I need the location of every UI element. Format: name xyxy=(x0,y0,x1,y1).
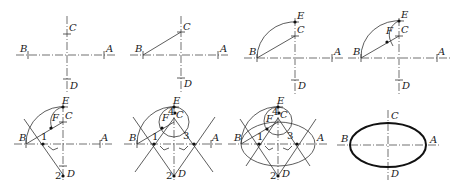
label-a: A xyxy=(105,43,113,54)
label-c: C xyxy=(183,21,191,32)
label-2: 2 xyxy=(166,170,172,181)
label-d: D xyxy=(390,168,399,179)
panel-step-8: B A C D xyxy=(337,110,440,180)
panel-step-5: B A C E F D 1 2 xyxy=(14,95,112,182)
label-a: A xyxy=(437,46,445,57)
label-f: F xyxy=(385,25,394,36)
label-b: B xyxy=(233,132,241,143)
label-a: A xyxy=(429,134,437,145)
label-3: 3 xyxy=(287,130,293,141)
label-c: C xyxy=(69,22,77,33)
label-e: E xyxy=(296,10,305,21)
label-3: 3 xyxy=(183,130,189,141)
panel-step-6: B A C E F D 1 2 3 4 xyxy=(124,95,222,182)
label-b: B xyxy=(340,133,348,144)
panel-step-7: B A C E F D 1 2 3 4 xyxy=(228,95,328,182)
label-a: A xyxy=(316,132,324,143)
label-1: 1 xyxy=(152,131,158,142)
label-b: B xyxy=(352,46,360,57)
label-2: 2 xyxy=(270,170,276,181)
label-2: 2 xyxy=(55,170,61,181)
label-a: A xyxy=(100,132,108,143)
panel-step-4: B A C E F D xyxy=(348,9,450,94)
label-b: B xyxy=(128,132,136,143)
label-a: A xyxy=(219,43,227,54)
label-e: E xyxy=(276,95,285,106)
label-c: C xyxy=(280,109,288,120)
panel-step-3: B A C E D xyxy=(244,10,345,94)
label-e: E xyxy=(172,95,181,106)
label-c: C xyxy=(401,24,409,35)
label-d: D xyxy=(297,80,306,91)
label-d: D xyxy=(401,80,410,91)
label-a: A xyxy=(333,46,341,57)
label-d: D xyxy=(66,168,75,179)
panel-step-2: B A C D xyxy=(130,16,228,92)
label-b: B xyxy=(18,132,26,143)
label-1: 1 xyxy=(257,131,263,142)
label-b: B xyxy=(248,46,256,57)
label-e: E xyxy=(400,9,409,20)
label-c: C xyxy=(176,109,184,120)
panel-step-1: B A C D xyxy=(16,16,115,92)
label-d: D xyxy=(69,80,78,91)
label-e: E xyxy=(61,95,70,106)
label-a: A xyxy=(211,132,219,143)
ellipse-construction-diagram: B A C D B A C D B A C E D xyxy=(0,0,456,189)
label-4: 4 xyxy=(168,106,174,117)
label-d: D xyxy=(281,168,290,179)
label-d: D xyxy=(177,168,186,179)
label-c: C xyxy=(391,110,399,121)
label-c: C xyxy=(65,110,73,121)
label-1: 1 xyxy=(41,131,47,142)
label-c: C xyxy=(297,24,305,35)
label-d: D xyxy=(183,78,192,89)
label-b: B xyxy=(134,43,142,54)
label-b: B xyxy=(19,43,27,54)
label-4: 4 xyxy=(272,106,278,117)
label-f: F xyxy=(51,112,60,123)
